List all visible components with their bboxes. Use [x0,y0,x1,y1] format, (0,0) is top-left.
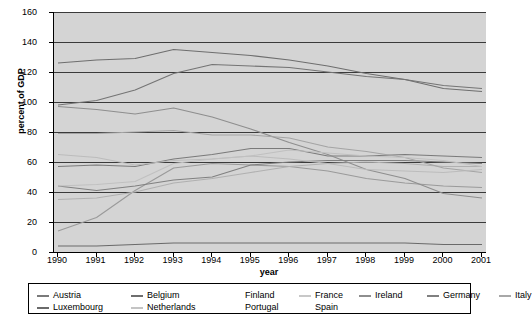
x-tick-mark [250,253,251,257]
x-tick-mark [173,253,174,257]
y-tick-mark [49,132,53,133]
legend-swatch-icon [299,307,311,309]
x-tick-label: 1999 [384,256,424,265]
y-tick-mark [49,192,53,193]
y-tick-label: 40 [3,188,37,197]
plot-lines [54,12,486,252]
legend-swatch-icon [427,295,439,297]
legend-item-luxembourg: Luxembourg [37,303,103,312]
y-tick-mark [49,72,53,73]
legend-item-finland: Finland [229,291,275,300]
series-line-finland [58,164,482,232]
x-tick-label: 1990 [37,256,77,265]
x-tick-label: 1991 [76,256,116,265]
legend-label: Austria [53,291,81,300]
y-tick-label: 140 [3,38,37,47]
x-tick-label: 1998 [345,256,385,265]
legend-label: France [315,291,343,300]
x-tick-label: 2001 [461,256,501,265]
x-tick-mark [96,253,97,257]
series-line-luxembourg [58,243,482,246]
legend-item-germany: Germany [427,291,480,300]
legend-item-portugal: Portugal [229,303,279,312]
legend-label: Germany [443,291,480,300]
y-axis-ticks: 020406080100120140160 [0,0,37,324]
y-tick-label: 120 [3,68,37,77]
series-line-italy [58,65,482,106]
y-tick-mark [49,102,53,103]
x-tick-label: 1997 [307,256,347,265]
x-tick-mark [288,253,289,257]
x-tick-label: 1993 [153,256,193,265]
legend-item-italy: Italy [499,291,532,300]
y-tick-mark [49,222,53,223]
y-tick-label: 60 [3,158,37,167]
x-tick-label: 1996 [268,256,308,265]
x-tick-label: 1994 [191,256,231,265]
x-axis-title: year [53,267,485,277]
legend-item-spain: Spain [299,303,338,312]
x-tick-label: 1995 [230,256,270,265]
legend-swatch-icon [131,295,143,297]
y-tick-mark [49,12,53,13]
legend-label: Portugal [245,303,279,312]
legend-label: Finland [245,291,275,300]
legend-item-france: France [299,291,343,300]
y-tick-label: 80 [3,128,37,137]
y-tick-mark [49,252,53,253]
legend-swatch-icon [131,307,143,309]
x-tick-mark [442,253,443,257]
y-tick-label: 100 [3,98,37,107]
legend-swatch-icon [229,295,241,297]
series-line-france [58,162,482,200]
x-tick-mark [134,253,135,257]
chart-legend: AustriaBelgiumFinlandFranceIrelandGerman… [28,283,471,314]
x-tick-mark [211,253,212,257]
x-tick-mark [327,253,328,257]
legend-label: Luxembourg [53,303,103,312]
y-tick-label: 20 [3,218,37,227]
legend-item-ireland: Ireland [359,291,403,300]
x-tick-label: 1992 [114,256,154,265]
legend-label: Spain [315,303,338,312]
legend-label: Ireland [375,291,403,300]
y-tick-label: 160 [3,8,37,17]
x-tick-label: 2000 [422,256,462,265]
legend-swatch-icon [229,307,241,309]
x-tick-mark [481,253,482,257]
legend-swatch-icon [499,295,511,297]
legend-label: Italy [515,291,532,300]
legend-item-netherlands: Netherlands [131,303,196,312]
legend-label: Netherlands [147,303,196,312]
legend-swatch-icon [359,295,371,297]
legend-item-belgium: Belgium [131,291,180,300]
legend-swatch-icon [37,295,49,297]
legend-label: Belgium [147,291,180,300]
series-line-belgium [58,50,482,92]
legend-swatch-icon [37,307,49,309]
series-line-ireland [58,107,482,199]
legend-swatch-icon [299,295,311,297]
x-tick-mark [57,253,58,257]
x-tick-mark [404,253,405,257]
y-tick-mark [49,42,53,43]
legend-item-austria: Austria [37,291,81,300]
y-tick-mark [49,162,53,163]
plot-area [53,12,486,253]
x-tick-mark [365,253,366,257]
